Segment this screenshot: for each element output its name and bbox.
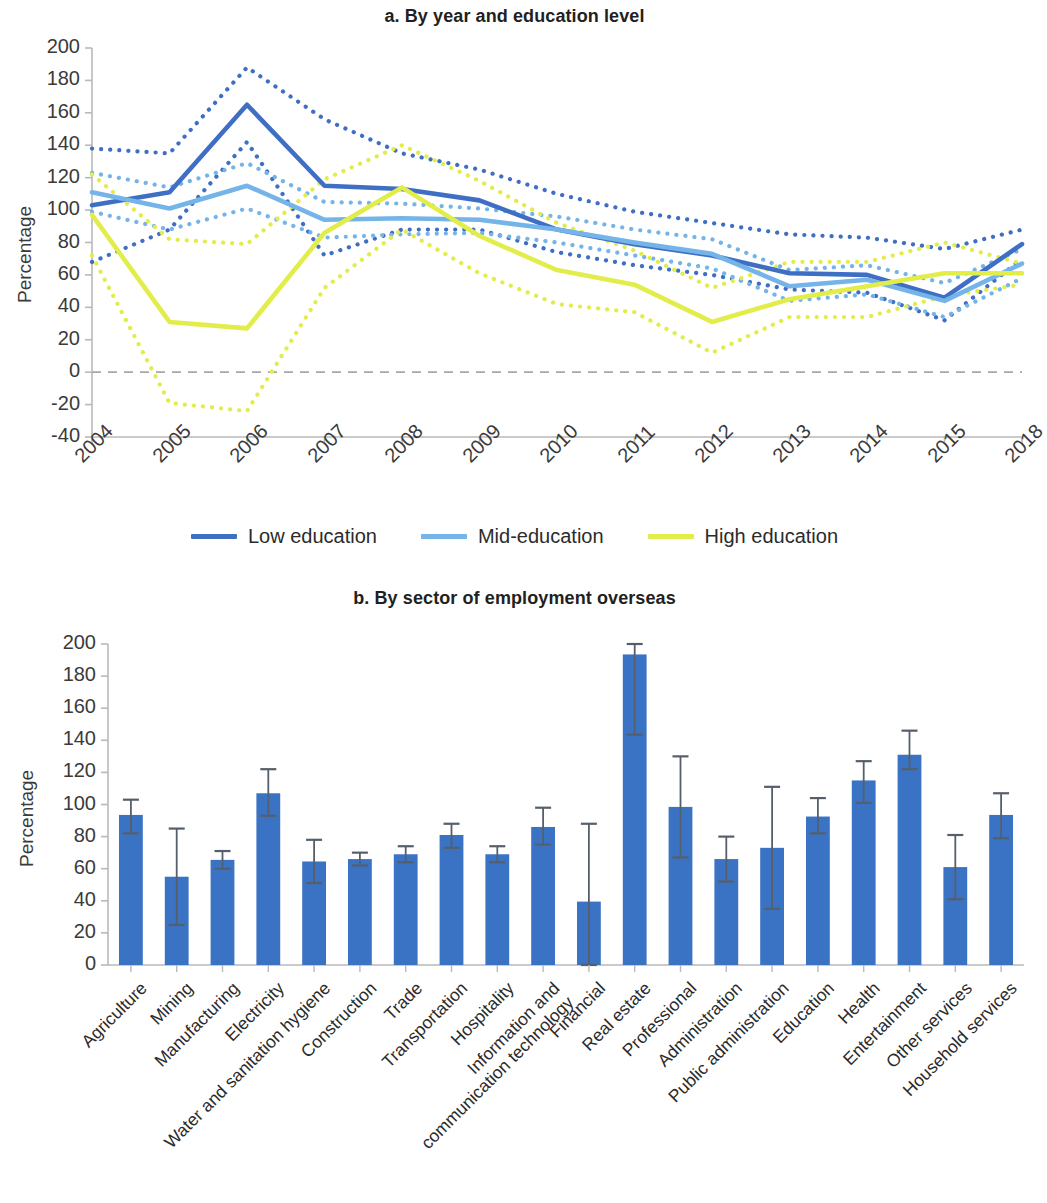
panel-b-ytick: 60	[74, 856, 96, 879]
panel-b-ytick: 160	[63, 695, 96, 718]
legend-item-0[interactable]: Low education	[191, 525, 377, 548]
panel-a-ytick: 100	[47, 197, 80, 220]
panel-b-ytick: 100	[63, 792, 96, 815]
panel-a-ytick: 40	[58, 294, 80, 317]
legend-label: Mid-education	[478, 525, 604, 548]
bar	[348, 859, 372, 965]
panel-b: b. By sector of employment overseas Perc…	[0, 580, 1029, 1203]
panel-b-ytick: 200	[63, 631, 96, 654]
panel-a-plot: Percentage -40-2002040608010012014016018…	[0, 0, 1029, 580]
panel-b-ytick: 180	[63, 663, 96, 686]
legend-item-1[interactable]: Mid-education	[421, 525, 604, 548]
bar	[531, 827, 555, 965]
panel-b-xtick: Agriculture	[78, 978, 152, 1052]
panel-a-ytick: 140	[47, 132, 80, 155]
panel-a-ytick: 0	[69, 359, 80, 382]
panel-a-ytick: 200	[47, 35, 80, 58]
panel-b-ytick: 140	[63, 727, 96, 750]
bar	[852, 780, 876, 965]
legend-label: Low education	[248, 525, 377, 548]
panel-a-ytick: 20	[58, 327, 80, 350]
panel-b-ytick: 80	[74, 824, 96, 847]
bar	[394, 854, 418, 965]
panel-b-ytick: 40	[74, 888, 96, 911]
legend-label: High education	[705, 525, 838, 548]
panel-a-ytick: 160	[47, 100, 80, 123]
panel-a-ytick: 180	[47, 67, 80, 90]
panel-a-ytick: -20	[51, 392, 80, 415]
legend-swatch-icon	[191, 534, 237, 539]
panel-b-ytick: 120	[63, 759, 96, 782]
panel-b-ytick: 20	[74, 920, 96, 943]
legend-swatch-icon	[648, 534, 694, 539]
bar	[485, 854, 509, 965]
bar	[898, 755, 922, 965]
bar	[256, 793, 280, 965]
panel-a-ytick: 80	[58, 230, 80, 253]
bar	[119, 815, 143, 965]
bar	[211, 860, 235, 965]
bar	[806, 817, 830, 965]
legend-item-2[interactable]: High education	[648, 525, 838, 548]
panel-a-ytick: 120	[47, 165, 80, 188]
panel-a-ytick: 60	[58, 262, 80, 285]
panel-b-svg	[0, 620, 1029, 980]
panel-a-svg	[0, 20, 1029, 480]
panel-b-ytick: 0	[85, 952, 96, 975]
bar	[440, 835, 464, 965]
panel-a: a. By year and education level Percentag…	[0, 0, 1029, 580]
panel-a-legend: Low educationMid-educationHigh education	[0, 525, 1029, 548]
legend-swatch-icon	[421, 534, 467, 539]
panel-b-plot: Percentage 020406080100120140160180200Ag…	[0, 580, 1029, 1203]
